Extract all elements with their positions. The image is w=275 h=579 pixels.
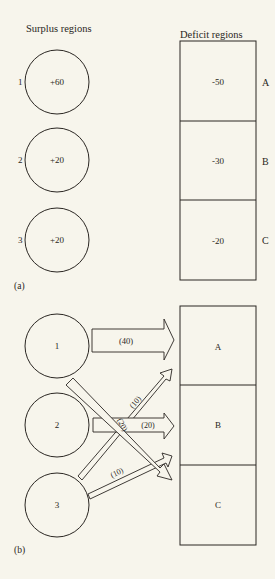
sink-id: B bbox=[215, 420, 221, 430]
surplus-region-2: 2 +20 bbox=[18, 128, 89, 192]
surplus-value: +60 bbox=[50, 77, 65, 87]
deficit-region-a: -50 A bbox=[212, 77, 270, 88]
source-id: 1 bbox=[55, 341, 60, 351]
deficit-id: B bbox=[262, 156, 269, 167]
surplus-heading: Surplus regions bbox=[26, 23, 92, 34]
deficit-region-b: -30 B bbox=[212, 156, 269, 167]
part-a-label: (a) bbox=[14, 281, 25, 292]
surplus-id: 2 bbox=[18, 155, 23, 165]
surplus-region-1: 1 +60 bbox=[18, 50, 89, 114]
deficit-heading: Deficit regions bbox=[180, 29, 243, 40]
sink-id: A bbox=[215, 342, 222, 352]
sink-box: A B C bbox=[180, 306, 256, 545]
sink-id: C bbox=[215, 500, 221, 510]
surplus-value: +20 bbox=[50, 155, 65, 165]
source-id: 2 bbox=[55, 420, 60, 430]
surplus-value: +20 bbox=[50, 235, 65, 245]
flow-arrow-1-to-a: (40) bbox=[92, 319, 174, 360]
deficit-value: -50 bbox=[212, 77, 224, 87]
source-id: 3 bbox=[55, 500, 60, 510]
deficit-region-c: -20 C bbox=[212, 235, 269, 246]
source-region-3: 3 bbox=[25, 473, 89, 537]
source-region-2: 2 bbox=[25, 393, 89, 457]
deficit-value: -30 bbox=[212, 156, 224, 166]
deficit-id: C bbox=[262, 235, 269, 246]
source-region-1: 1 bbox=[25, 314, 89, 378]
part-a: Surplus regions Deficit regions 1 +60 2 … bbox=[14, 23, 270, 292]
flow-label: (20) bbox=[141, 421, 155, 430]
surplus-id: 1 bbox=[18, 77, 23, 87]
surplus-id: 3 bbox=[18, 235, 23, 245]
deficit-id: A bbox=[262, 77, 270, 88]
part-b: 1 2 3 A B C (10) (10) bbox=[14, 306, 256, 556]
transport-diagram: Surplus regions Deficit regions 1 +60 2 … bbox=[0, 0, 275, 579]
surplus-region-3: 3 +20 bbox=[18, 208, 89, 272]
deficit-value: -20 bbox=[212, 236, 224, 246]
part-b-label: (b) bbox=[14, 545, 25, 556]
flow-label: (40) bbox=[119, 336, 133, 346]
